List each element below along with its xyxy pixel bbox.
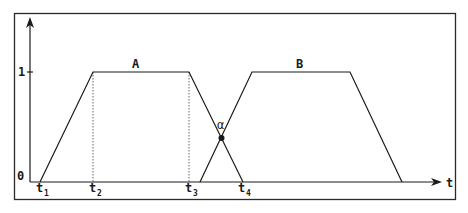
svg-text:t: t (238, 181, 245, 195)
time-label-t3: t 3 (185, 181, 198, 198)
trapezoid-a-label: A (132, 57, 140, 71)
fuzzy-trapezoid-diagram: t 1 0 A B α t 1 t 2 t 3 t 4 (0, 0, 468, 213)
trapezoid-b (200, 72, 402, 182)
intersection-point (219, 135, 225, 141)
svg-text:t: t (89, 181, 96, 195)
svg-text:t: t (36, 181, 43, 195)
y-tick-label-0: 0 (17, 169, 24, 183)
trapezoid-a (40, 72, 243, 182)
time-label-t1: t 1 (36, 181, 49, 198)
svg-text:t: t (185, 181, 192, 195)
x-axis-label: t (446, 176, 453, 190)
svg-text:3: 3 (193, 189, 198, 198)
trapezoid-b-label: B (296, 57, 303, 71)
time-label-t2: t 2 (89, 181, 102, 198)
diagram-frame (15, 14, 456, 200)
intersection-label: α (217, 118, 224, 132)
svg-text:1: 1 (44, 189, 49, 198)
y-tick-label-1: 1 (18, 65, 25, 79)
time-label-t4: t 4 (238, 181, 251, 198)
svg-text:2: 2 (97, 189, 102, 198)
svg-text:4: 4 (246, 189, 251, 198)
